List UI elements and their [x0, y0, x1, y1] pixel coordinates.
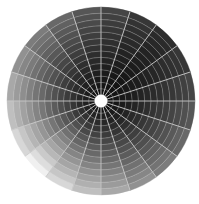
polar-grid-svg: [0, 0, 199, 204]
center-hole: [95, 95, 108, 108]
polar-grayscale-wheel: [0, 0, 199, 204]
